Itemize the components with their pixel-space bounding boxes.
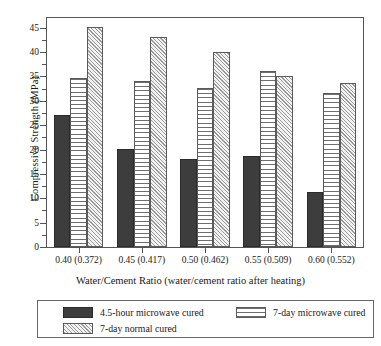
- legend-item-series-0: 4.5-hour microwave cured: [63, 305, 204, 319]
- y-axis-minor-tick-mark: [42, 235, 46, 236]
- y-axis-tick-mark: [40, 76, 46, 77]
- bar: [323, 93, 340, 247]
- bar: [180, 159, 197, 247]
- x-axis-tick-mark: [331, 248, 332, 253]
- x-axis-tick-mark: [205, 248, 206, 253]
- y-axis-tick-mark: [40, 174, 46, 175]
- y-axis-tick-label: 5: [0, 217, 44, 229]
- y-axis-tick-mark: [40, 125, 46, 126]
- y-axis-minor-tick-mark: [42, 64, 46, 65]
- legend-item-series-2: 7-day normal cured: [63, 321, 177, 335]
- bar: [276, 76, 293, 248]
- bar: [134, 81, 151, 247]
- x-axis-tick-mark: [268, 248, 269, 253]
- x-axis-title: Water/Cement Ratio (water/cement ratio a…: [0, 275, 381, 286]
- y-axis-minor-tick-mark: [42, 113, 46, 114]
- bar-group: [117, 18, 167, 247]
- bar-group: [307, 18, 357, 247]
- x-axis-tick-mark: [79, 248, 80, 253]
- x-axis-tick-mark: [142, 248, 143, 253]
- bar-group: [243, 18, 293, 247]
- y-axis-tick-mark: [40, 52, 46, 53]
- bar: [213, 52, 230, 247]
- legend-label-series-2: 7-day normal cured: [100, 323, 177, 334]
- legend-swatch-horizontal-lines-icon: [236, 307, 266, 318]
- x-axis-tick-label: 0.60 (0.552): [286, 254, 376, 267]
- y-axis-minor-tick-mark: [42, 186, 46, 187]
- y-axis-tick-label: 20: [0, 144, 44, 156]
- y-axis-tick-label: 15: [0, 168, 44, 180]
- y-axis-tick-label: 30: [0, 95, 44, 107]
- y-axis-minor-tick-mark: [42, 40, 46, 41]
- y-axis-tick-mark: [40, 247, 46, 248]
- y-axis-tick-label: 40: [0, 46, 44, 58]
- bar: [150, 37, 167, 247]
- y-axis-tick-label: 45: [0, 22, 44, 34]
- y-axis-tick-label: 10: [0, 192, 44, 204]
- legend-label-series-0: 4.5-hour microwave cured: [100, 307, 204, 318]
- bar: [54, 115, 71, 247]
- y-axis-minor-tick-mark: [42, 162, 46, 163]
- legend-swatch-diagonal-hatch-icon: [63, 323, 93, 334]
- legend-swatch-solid-dark-icon: [63, 307, 93, 318]
- y-axis-minor-tick-mark: [42, 89, 46, 90]
- y-axis-tick-label: 25: [0, 119, 44, 131]
- bar: [340, 83, 357, 247]
- y-axis-tick-mark: [40, 150, 46, 151]
- bar: [243, 156, 260, 247]
- bar-group: [180, 18, 230, 247]
- legend-item-series-1: 7-day microwave cured: [236, 305, 365, 319]
- y-axis-tick-mark: [40, 223, 46, 224]
- bar: [197, 88, 214, 247]
- bar: [260, 71, 277, 247]
- bar: [117, 149, 134, 247]
- y-axis-tick-label: 0: [0, 241, 44, 253]
- y-axis-minor-tick-mark: [42, 137, 46, 138]
- bar: [70, 78, 87, 247]
- bar-group: [54, 18, 104, 247]
- legend-label-series-1: 7-day microwave cured: [273, 307, 365, 318]
- bar: [87, 27, 104, 247]
- bar: [307, 192, 324, 247]
- compressive-strength-bar-chart: Compressive Strength (MPa) 0510152025303…: [0, 0, 381, 346]
- y-axis-tick-mark: [40, 101, 46, 102]
- y-axis-tick-mark: [40, 198, 46, 199]
- bar-groups: [47, 18, 363, 247]
- chart-legend: 4.5-hour microwave cured 7-day microwave…: [37, 300, 374, 338]
- y-axis-tick-label: 35: [0, 70, 44, 82]
- y-axis-minor-tick-mark: [42, 210, 46, 211]
- y-axis-tick-mark: [40, 28, 46, 29]
